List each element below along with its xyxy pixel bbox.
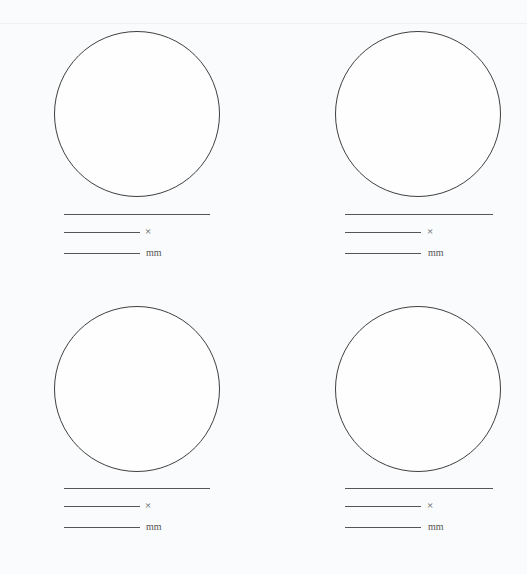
- answer-line-measure[interactable]: [64, 527, 140, 528]
- answer-line-name[interactable]: [64, 214, 210, 215]
- circle-shape: [335, 306, 501, 472]
- answer-line-name[interactable]: [64, 488, 210, 489]
- answer-line-measure[interactable]: [64, 253, 140, 254]
- answer-line-name[interactable]: [345, 214, 493, 215]
- multiply-symbol: ×: [427, 500, 433, 510]
- unit-label: mm: [146, 248, 162, 258]
- circle-shape: [335, 31, 501, 197]
- unit-label: mm: [428, 248, 444, 258]
- answer-line-factor[interactable]: [64, 232, 140, 233]
- answer-line-measure[interactable]: [345, 527, 421, 528]
- page-edge: [0, 23, 527, 24]
- multiply-symbol: ×: [145, 226, 151, 236]
- unit-label: mm: [146, 522, 162, 532]
- multiply-symbol: ×: [427, 226, 433, 236]
- answer-line-factor[interactable]: [345, 232, 421, 233]
- answer-line-factor[interactable]: [64, 506, 140, 507]
- circle-shape: [54, 306, 220, 472]
- multiply-symbol: ×: [145, 500, 151, 510]
- answer-line-name[interactable]: [345, 488, 493, 489]
- answer-line-measure[interactable]: [345, 253, 421, 254]
- unit-label: mm: [428, 522, 444, 532]
- answer-line-factor[interactable]: [345, 506, 421, 507]
- circle-shape: [54, 31, 220, 197]
